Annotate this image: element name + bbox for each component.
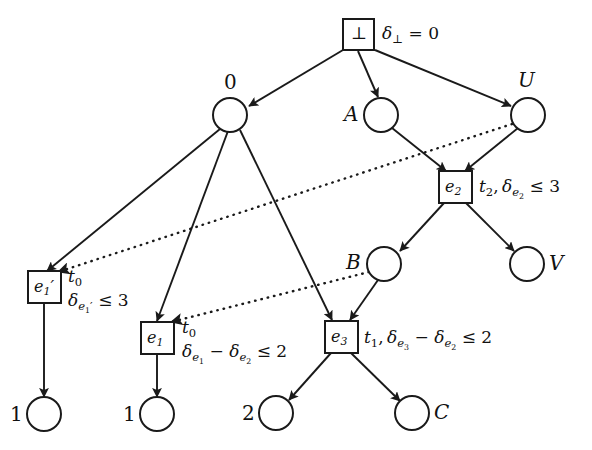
edge-0-to-e3 [240, 130, 332, 320]
node-U[interactable] [511, 98, 545, 132]
node-e2-inner: e2 [445, 179, 461, 195]
edge-B-to-e3 [350, 280, 378, 320]
edge-e3-to-leaf2 [289, 353, 331, 400]
node-U-label: U [518, 70, 535, 90]
node-V[interactable] [510, 247, 544, 281]
annotation-bot-delta: δ⊥ = 0 [382, 25, 439, 42]
node-leaf-2-label: 2 [242, 403, 255, 423]
node-e1p-inner: e1′ [34, 279, 54, 295]
node-leaf-C[interactable] [395, 396, 429, 430]
node-leaf-C-label: C [434, 402, 449, 422]
node-bot-inner: ⊥ [351, 25, 367, 42]
node-0-label: 0 [224, 72, 237, 92]
node-leaf-1a[interactable] [27, 397, 61, 431]
edge-e3-to-leafC [351, 353, 400, 401]
diagram-canvas: ⊥ e2 e1′ e1 e3 0 A U B V 1 1 2 C δ⊥ = 0 … [0, 0, 592, 450]
node-0[interactable] [213, 98, 247, 132]
node-A[interactable] [364, 98, 398, 132]
annotation-e2-constraint: t2, δe2 ≤ 3 [479, 178, 560, 196]
edge-0-to-e1p [47, 129, 220, 271]
node-leaf-2[interactable] [259, 396, 293, 430]
edge-bot-to-0 [249, 50, 343, 106]
node-e1-inner: e1 [147, 330, 163, 346]
edge-B-to-e1-dotted [171, 272, 369, 322]
annotation-e1-trigger: t0 [182, 319, 196, 336]
node-e3-inner: e3 [331, 329, 347, 345]
edge-A-to-e2 [392, 128, 446, 171]
edge-0-to-e1 [157, 131, 228, 321]
graph-svg [0, 0, 592, 450]
edge-e2-to-V [466, 203, 514, 251]
node-B[interactable] [367, 247, 401, 281]
edge-e2-to-B [400, 203, 444, 251]
node-A-label: A [344, 104, 358, 124]
annotation-e3-constraint: t1, δe3 − δe2 ≤ 2 [364, 329, 492, 347]
annotation-e1p-constraint: δe1′ ≤ 3 [68, 292, 129, 310]
node-leaf-1a-label: 1 [10, 404, 23, 424]
node-leaf-1b-label: 1 [123, 404, 136, 424]
edge-bot-to-A [358, 51, 378, 97]
annotation-e1-constraint: δe1 − δe2 ≤ 2 [182, 343, 287, 361]
node-V-label: V [549, 253, 563, 273]
edge-U-to-e2 [465, 128, 518, 171]
edge-bot-to-U [375, 50, 511, 106]
node-leaf-1b[interactable] [140, 397, 174, 431]
annotation-e1p-trigger: t0 [68, 268, 82, 285]
node-B-label: B [346, 252, 361, 272]
